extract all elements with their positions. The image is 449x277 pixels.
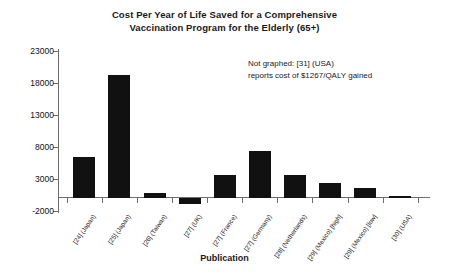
bar bbox=[389, 196, 411, 199]
x-tick bbox=[277, 198, 278, 203]
x-tick bbox=[207, 198, 208, 203]
x-tick-label: [26] (Taiwan) bbox=[141, 213, 168, 247]
y-axis-line bbox=[58, 49, 59, 213]
bar bbox=[179, 198, 201, 204]
bar bbox=[354, 188, 376, 198]
chart-title-line-1: Cost Per Year of Life Saved for a Compre… bbox=[0, 8, 449, 21]
bar bbox=[108, 75, 130, 198]
x-tick-label: [27] (UK) bbox=[182, 213, 202, 238]
x-tick bbox=[172, 198, 173, 203]
x-tick-label: [24] (Japan) bbox=[72, 213, 97, 245]
y-tick-label: 8000 bbox=[35, 142, 54, 152]
x-tick bbox=[312, 198, 313, 203]
x-tick bbox=[137, 198, 138, 203]
plot-area: 23000180001300080003000-2000 bbox=[58, 51, 430, 211]
x-tick bbox=[67, 198, 68, 203]
bar bbox=[249, 151, 271, 198]
x-tick bbox=[418, 198, 419, 203]
x-tick bbox=[102, 198, 103, 203]
x-tick bbox=[242, 198, 243, 203]
y-tick-label: 18000 bbox=[30, 78, 54, 88]
x-tick-label: [27] (Germany) bbox=[242, 213, 272, 252]
y-tick-label: 3000 bbox=[35, 174, 54, 184]
bar bbox=[73, 157, 95, 199]
x-tick-label: [27] (France) bbox=[211, 213, 238, 247]
bar bbox=[284, 175, 306, 198]
bar bbox=[214, 175, 236, 198]
y-tick-label: -2000 bbox=[32, 206, 54, 216]
chart-title-line-2: Vaccination Program for the Elderly (65+… bbox=[0, 21, 449, 34]
x-tick bbox=[383, 198, 384, 203]
y-tick-label: 13000 bbox=[30, 110, 54, 120]
chart-title: Cost Per Year of Life Saved for a Compre… bbox=[0, 8, 449, 34]
x-tick-label: [25] (Japan) bbox=[107, 213, 132, 245]
x-tick bbox=[348, 198, 349, 203]
x-tick-label: [30] (USA) bbox=[390, 213, 413, 241]
bar bbox=[144, 193, 166, 198]
chart-container: Cost Per Year of Life Saved for a Compre… bbox=[0, 0, 449, 277]
x-axis-tick-labels: [24] (Japan)[25] (Japan)[26] (Taiwan)[27… bbox=[58, 211, 430, 257]
x-axis-title: Publication bbox=[0, 253, 449, 263]
bar bbox=[319, 183, 341, 198]
y-tick-label: 23000 bbox=[30, 46, 54, 56]
